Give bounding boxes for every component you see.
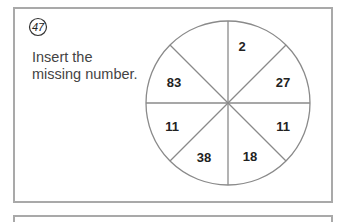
segment-right-upper: 27 — [276, 75, 290, 90]
segment-bottom-right: 18 — [243, 149, 257, 164]
puzzle-prompt: Insert the missing number. — [32, 49, 142, 83]
segment-left-lower: 11 — [165, 119, 179, 134]
prompt-line-1: Insert the — [32, 49, 142, 66]
segment-top-right: 2 — [238, 39, 245, 54]
segment-left-upper: 83 — [167, 75, 181, 90]
question-number-badge: 47 — [28, 17, 48, 37]
next-puzzle-card — [13, 215, 333, 222]
prompt-line-2: missing number. — [32, 66, 142, 83]
question-number: 47 — [28, 17, 48, 37]
segment-right-lower: 11 — [276, 119, 290, 134]
segment-bottom-left: 38 — [197, 150, 211, 165]
number-wheel: 2 27 11 18 38 11 83 — [130, 10, 330, 200]
